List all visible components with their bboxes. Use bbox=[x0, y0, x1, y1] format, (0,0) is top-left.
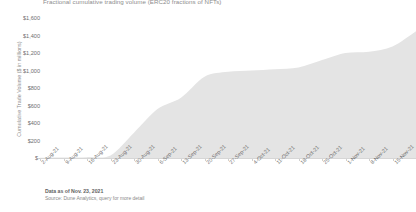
y-axis-tick-label: $1,000 bbox=[23, 68, 40, 74]
y-axis-tick-label: $1,400 bbox=[23, 33, 40, 39]
y-axis-tick-label: $400 bbox=[28, 120, 40, 126]
y-axis-tick-label: $600 bbox=[28, 103, 40, 109]
chart-container: Fractional cumulative trading volume (ER… bbox=[0, 0, 416, 212]
plot-area bbox=[40, 18, 416, 158]
y-axis-tick-label: $1,200 bbox=[23, 50, 40, 56]
y-axis-tick-label: $1,600 bbox=[23, 15, 40, 21]
y-axis-tick-labels: $1,600$1,400$1,200$1,000$800$600$400$200… bbox=[18, 18, 40, 158]
chart-footer: Data as of Nov. 23, 2021 Source: Dune An… bbox=[45, 188, 405, 202]
y-axis-tick-label: $200 bbox=[28, 138, 40, 144]
y-axis-tick-label: $800 bbox=[28, 85, 40, 91]
footer-source: Source: Dune Analytics, query for more d… bbox=[45, 195, 405, 202]
footer-data-as-of: Data as of Nov. 23, 2021 bbox=[45, 188, 405, 195]
chart-title: Fractional cumulative trading volume (ER… bbox=[43, 0, 221, 6]
x-axis-tick-labels: 2-Aug-219-Aug-2116-Aug-2123-Aug-2130-Aug… bbox=[40, 159, 416, 185]
area-series-fractional-cumulative-trading-volume bbox=[40, 18, 416, 158]
